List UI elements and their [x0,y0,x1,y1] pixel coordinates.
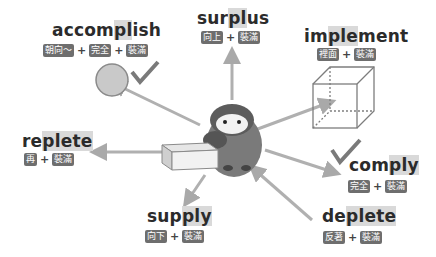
box-figure [162,143,218,170]
check-icon [132,62,158,82]
word-comply: comply [349,155,419,175]
word-surplus: surplus [197,8,269,28]
word-supply: supply [147,206,212,226]
morpheme-badge: 裝滿 [52,153,74,166]
morpheme-badge: 裝滿 [360,231,382,244]
morpheme-badge: 裡面 [317,48,339,61]
word-implement: implement [304,26,408,46]
morpheme-badge: 裝滿 [385,180,407,193]
morpheme-badge: 向下 [145,230,167,243]
morpheme-badge: 完全 [89,44,111,57]
morpheme-badge: 再 [24,153,37,166]
parts-supply: 向下+ 裝滿 [145,230,204,243]
morpheme-badge: 朝向～ [43,44,74,57]
morpheme-badge: 裝滿 [182,230,204,243]
parts-comply: 完全+ 裝滿 [348,180,407,193]
morpheme-badge: 完全 [348,180,370,193]
word-deplete: deplete [322,206,396,226]
parts-implement: 裡面+ 裝滿 [317,48,376,61]
morpheme-badge: 反著 [323,231,345,244]
circle-icon [96,64,128,96]
morpheme-badge: 裝滿 [238,31,260,44]
word-accomplish: accomplish [52,20,161,40]
word-replete: replete [22,131,93,151]
parts-accomplish: 朝向～+ 完全+ 裝滿 [43,44,148,57]
morpheme-badge: 向上 [201,31,223,44]
parts-replete: 再+ 裝滿 [24,153,74,166]
parts-surplus: 向上+ 裝滿 [201,31,260,44]
morpheme-badge: 裝滿 [126,44,148,57]
cube-icon [313,67,374,128]
parts-deplete: 反著+ 裝滿 [323,231,382,244]
morpheme-badge: 裝滿 [354,48,376,61]
diagram: accomplish 朝向～+ 完全+ 裝滿 surplus 向上+ 裝滿 im… [0,0,436,257]
